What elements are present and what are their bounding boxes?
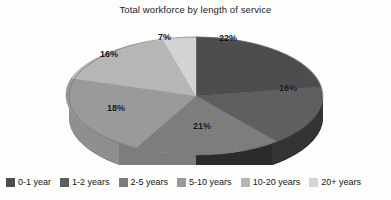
legend-label: 10-20 years — [253, 178, 301, 187]
legend-item-0-1-year[interactable]: 0-1 year — [6, 178, 51, 187]
legend-swatch-icon — [60, 178, 69, 187]
legend-item-1-2-years[interactable]: 1-2 years — [60, 178, 110, 187]
slice-value-label-2-5-years: 21% — [193, 121, 211, 131]
slice-value-label-20-plus-years: 7% — [158, 32, 171, 42]
legend-swatch-icon — [119, 178, 128, 187]
legend-item-5-10-years[interactable]: 5-10 years — [177, 178, 232, 187]
legend-swatch-icon — [177, 178, 186, 187]
pie-slice-0-1-year[interactable] — [196, 37, 321, 96]
legend-swatch-icon — [241, 178, 250, 187]
legend-label: 1-2 years — [72, 178, 110, 187]
legend-item-10-20-years[interactable]: 10-20 years — [241, 178, 301, 187]
legend-item-2-5-years[interactable]: 2-5 years — [119, 178, 169, 187]
chart-legend: 0-1 year 1-2 years 2-5 years 5-10 years … — [0, 174, 391, 190]
legend-item-20-plus-years[interactable]: 20+ years — [309, 178, 361, 187]
legend-label: 20+ years — [321, 178, 361, 187]
slice-value-label-10-20-years: 16% — [100, 49, 118, 59]
chart-title: Total workforce by length of service — [0, 4, 391, 15]
chart-page: Total workforce by length of service — [0, 0, 391, 200]
legend-swatch-icon — [6, 178, 15, 187]
legend-label: 5-10 years — [189, 178, 232, 187]
legend-swatch-icon — [309, 178, 318, 187]
legend-label: 2-5 years — [131, 178, 169, 187]
legend-label: 0-1 year — [18, 178, 51, 187]
slice-value-label-5-10-years: 18% — [107, 103, 125, 113]
slice-value-label-0-1-year: 22% — [219, 33, 237, 43]
slice-value-label-1-2-years: 16% — [279, 83, 297, 93]
